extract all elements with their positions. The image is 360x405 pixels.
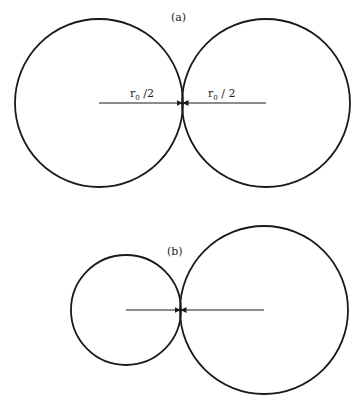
panel-a-left-radius-label: r0 /2 [130,87,154,102]
panel-b-label: (b) [167,245,183,258]
panel-a-label: (a) [171,11,186,24]
panel-a-right-radius-label: r0 / 2 [208,87,235,102]
panel-a: (a) r0 /2 r0 / 2 [15,11,350,187]
panel-b: (b) [71,226,348,394]
two-circles-diagram: (a) r0 /2 r0 / 2 (b) [0,0,360,405]
